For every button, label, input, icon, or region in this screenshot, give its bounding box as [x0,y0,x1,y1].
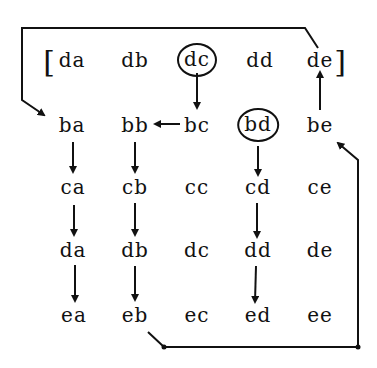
cell-top-da: da [59,50,86,70]
cell-ee: ee [307,305,333,325]
cell-top-dc-circled: dc [177,43,217,77]
cell-top-de: de [307,50,334,70]
cell-top-db: db [121,50,149,70]
permutation-grid-diagram: [ ] da db dc dd de ba bb bc bd be ca cb … [0,0,377,368]
cell-ed: ed [245,305,272,325]
cell-ce: ce [307,177,332,197]
cell-top-dd: dd [246,50,274,70]
cell-de: de [307,240,334,260]
cell-ec: ec [184,305,209,325]
cell-ea: ea [61,305,87,325]
open-bracket: [ [43,47,55,77]
cell-da: da [60,240,87,260]
close-bracket: ] [334,47,346,77]
cell-be: be [307,115,334,135]
cell-cb: cb [122,177,148,197]
cell-eb: eb [122,305,149,325]
cell-cc: cc [185,177,209,197]
cell-db: db [121,240,149,260]
cell-ba: ba [59,115,86,135]
cell-dd: dd [244,240,272,260]
cell-bb: bb [121,115,149,135]
cell-bc: bc [184,115,210,135]
arrow-dd-to-ed [255,266,256,302]
cell-bd-circled: bd [237,108,279,142]
cell-ca: ca [60,177,85,197]
cell-cd: cd [245,177,271,197]
cell-dc: dc [184,240,210,260]
